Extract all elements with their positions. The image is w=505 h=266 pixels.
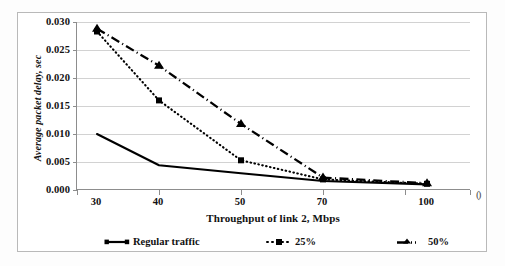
y-tick-label-0.000: 0.000 (20, 184, 70, 195)
legend-item-25-percent[interactable]: 25% (266, 236, 316, 247)
scan-edge-artifact: () (476, 188, 479, 200)
x-tick-mark-end (470, 190, 471, 195)
plot-area (76, 22, 470, 190)
series-regular-traffic (97, 134, 427, 184)
legend-item-50-percent[interactable]: 50% (394, 236, 449, 247)
x-tick-mark-30 (77, 190, 78, 195)
legend-label-25-percent: 25% (295, 236, 316, 247)
legend-label-regular-traffic: Regular traffic (133, 236, 200, 247)
marker-50-x30 (92, 24, 102, 32)
marker-50-x50 (236, 119, 246, 127)
legend-label-50-percent: 50% (428, 236, 449, 247)
x-axis-title: Throughput of link 2, Mbps (76, 212, 470, 224)
y-tick-label-0.010: 0.010 (20, 128, 70, 139)
x-tick-mark-40 (159, 190, 160, 195)
y-tick-label-0.005: 0.005 (20, 156, 70, 167)
dotted-square-key-icon (266, 237, 292, 247)
x-tick-label-30: 30 (76, 196, 116, 207)
y-tick-label-0.020: 0.020 (20, 72, 70, 83)
marker-50-x100 (422, 178, 432, 186)
marker-25-x50 (238, 157, 244, 163)
x-tick-label-50: 50 (220, 196, 260, 207)
figure-container: Average packet delay, sec (0, 0, 505, 266)
marker-25-x40 (156, 97, 162, 103)
series-25-percent (97, 32, 427, 184)
x-tick-label-100: 100 (406, 196, 446, 207)
legend: Regular traffic 25% 50% (76, 236, 476, 252)
x-tick-label-40: 40 (138, 196, 178, 207)
x-tick-mark-70 (323, 190, 324, 195)
y-tick-label-0.015: 0.015 (20, 100, 70, 111)
x-tick-mark-100 (405, 190, 406, 195)
y-tick-label-0.025: 0.025 (20, 44, 70, 55)
x-tick-label-70: 70 (302, 196, 342, 207)
dash-dot-key-icon (394, 237, 420, 247)
series-svg (77, 22, 471, 190)
marker-50-x70 (318, 173, 328, 181)
y-tick-label-0.030: 0.030 (20, 16, 70, 27)
x-tick-mark-50 (241, 190, 242, 195)
legend-item-regular-traffic[interactable]: Regular traffic (104, 236, 200, 247)
solid-line-key-icon (104, 237, 130, 247)
